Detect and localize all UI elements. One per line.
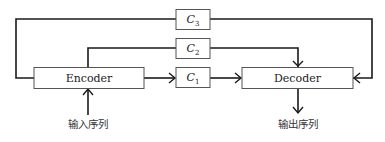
c1-sub: 1	[195, 78, 199, 86]
decoder-label: Decoder	[242, 73, 353, 84]
c1-label: C1	[176, 72, 210, 86]
output-sequence-label: 输出序列	[268, 119, 328, 130]
c3-label: C3	[176, 14, 210, 28]
input-sequence-label: 输入序列	[58, 119, 118, 130]
c2-base: C	[187, 42, 195, 55]
c3-base: C	[187, 13, 195, 26]
c1-base: C	[187, 71, 195, 84]
c2-sub: 2	[195, 49, 199, 57]
c3-sub: 3	[195, 20, 199, 28]
encoder-label: Encoder	[34, 73, 144, 84]
c2-label: C2	[176, 43, 210, 57]
edge-encoder-c2	[88, 48, 176, 67]
edge-c2-decoder	[210, 48, 298, 67]
